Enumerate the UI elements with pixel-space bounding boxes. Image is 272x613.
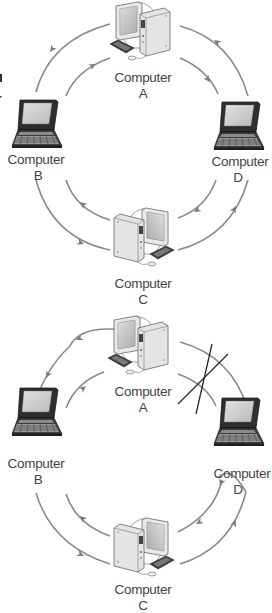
laptop-computer-icon xyxy=(214,398,264,446)
node-letter: C xyxy=(138,292,148,307)
svg-text:Computer: Computer xyxy=(115,70,173,85)
node-letter: D xyxy=(233,170,243,185)
arrowhead-icon xyxy=(43,370,52,379)
svg-text:D: D xyxy=(233,170,243,185)
svg-text:A: A xyxy=(139,400,148,415)
svg-text:A: A xyxy=(139,86,148,101)
laptop-computer-icon xyxy=(12,100,62,148)
node-name: Computer xyxy=(212,154,270,169)
desktop-computer-icon xyxy=(108,316,168,374)
desktop-computer-icon xyxy=(114,518,174,576)
svg-text:Computer: Computer xyxy=(214,466,272,481)
laptop-computer-icon xyxy=(12,388,62,436)
node-letter: D xyxy=(233,482,243,497)
laptop-computer-icon xyxy=(214,102,264,150)
node-name: Computer xyxy=(115,70,173,85)
computer-a-node: Computer A xyxy=(110,2,172,101)
computer-b-node: Computer B xyxy=(8,388,66,487)
desktop-computer-icon xyxy=(114,208,174,266)
svg-text:B: B xyxy=(34,472,43,487)
link-d-to-c-inner xyxy=(178,180,216,218)
computer-c-node: Computer C xyxy=(114,208,174,307)
computer-a-node: Computer A xyxy=(108,316,172,415)
svg-text:Computer: Computer xyxy=(8,152,66,167)
link-b-to-a-inner xyxy=(66,58,110,96)
desktop-computer-icon xyxy=(110,2,170,60)
computer-c-node: Computer C xyxy=(114,518,174,613)
svg-text:C: C xyxy=(138,292,148,307)
node-name: Computer xyxy=(115,276,173,291)
cropped-text-fragment xyxy=(0,96,2,98)
link-c-to-b-inner xyxy=(66,494,110,536)
link-a-d-inner-broken xyxy=(178,374,216,406)
svg-text:C: C xyxy=(138,598,148,613)
arrowhead-icon xyxy=(79,384,88,393)
node-name: Computer xyxy=(214,466,272,481)
node-letter: A xyxy=(139,400,148,415)
node-name: Computer xyxy=(115,384,173,399)
link-a-to-d-inner xyxy=(180,58,218,94)
svg-text:Computer: Computer xyxy=(212,154,270,169)
svg-text:Computer: Computer xyxy=(8,456,66,471)
svg-text:Computer: Computer xyxy=(115,384,173,399)
link-d-to-c-inner xyxy=(178,480,222,532)
computer-d-node: Computer D xyxy=(212,102,270,185)
svg-text:Computer: Computer xyxy=(115,276,173,291)
cropped-text-fragment xyxy=(0,74,2,82)
arrowhead-icon xyxy=(78,514,87,523)
ring-diagram-normal: Computer A Computer B Computer D Compute… xyxy=(8,2,270,307)
link-a-to-b-outer xyxy=(36,24,110,92)
arrowhead-icon xyxy=(88,61,97,70)
ring-diagram-broken: Computer A Computer B Computer D Compute… xyxy=(8,316,272,613)
link-b-to-c-outer xyxy=(36,493,110,564)
node-letter: C xyxy=(138,598,148,613)
ring-network-figure: Computer A Computer B Computer D Compute… xyxy=(0,0,272,613)
node-name: Computer xyxy=(115,582,173,597)
svg-text:B: B xyxy=(34,168,43,183)
node-name: Computer xyxy=(8,456,66,471)
link-c-to-d-outer xyxy=(178,180,248,250)
svg-text:Computer: Computer xyxy=(115,582,173,597)
link-b-to-a-inner xyxy=(66,372,104,408)
node-letter: A xyxy=(139,86,148,101)
node-letter: B xyxy=(34,168,43,183)
link-c-to-b-inner xyxy=(66,180,110,220)
svg-text:D: D xyxy=(233,482,243,497)
node-letter: B xyxy=(34,472,43,487)
break-mark-x xyxy=(178,354,228,404)
computer-b-node: Computer B xyxy=(8,100,66,183)
link-b-to-c-outer xyxy=(36,180,110,250)
arrowhead-icon xyxy=(47,44,56,53)
break-mark-x xyxy=(196,344,212,414)
node-name: Computer xyxy=(8,152,66,167)
